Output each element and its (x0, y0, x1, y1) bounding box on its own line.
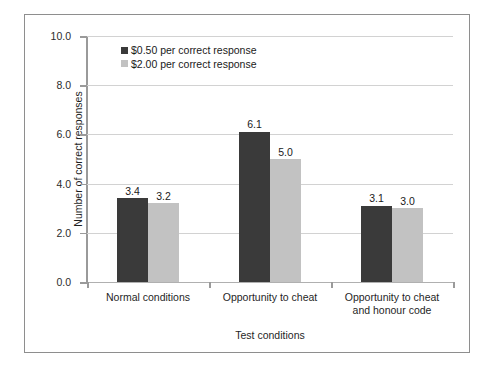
y-tick-mark (80, 282, 87, 284)
bar-value-label: 5.0 (278, 147, 293, 158)
y-tick-mark (80, 36, 87, 38)
legend-item[interactable]: $2.00 per correct response (121, 59, 257, 70)
bar-value-label: 3.1 (369, 193, 384, 204)
bar-value-label: 3.4 (125, 186, 140, 197)
bar[interactable]: 5.0 (270, 159, 301, 282)
y-tick-mark (80, 184, 87, 186)
legend-item-label: $2.00 per correct response (131, 59, 257, 70)
y-tick-label: 10.0 (51, 31, 71, 42)
x-tick-mark (87, 282, 89, 288)
bar-value-label: 3.0 (400, 196, 415, 207)
bar[interactable]: 3.4 (117, 198, 148, 282)
axis-baseline (87, 282, 453, 283)
bar-group: 6.15.0 (209, 36, 331, 282)
x-tick-mark (453, 282, 455, 288)
x-axis-category-label: Opportunity to cheat (201, 291, 339, 304)
y-tick-label: 2.0 (56, 228, 71, 239)
y-tick-label: 8.0 (56, 80, 71, 91)
legend-swatch-icon (121, 47, 128, 54)
legend: $0.50 per correct response$2.00 per corr… (121, 45, 257, 69)
bar-value-label: 3.2 (156, 191, 171, 202)
chart-frame: Number of correct responses 0.02.04.06.0… (24, 14, 470, 353)
x-axis-category-label: Opportunity to cheatand honour code (323, 291, 461, 317)
x-axis-category-label-line: Normal conditions (79, 291, 217, 304)
x-tick-mark (209, 282, 211, 288)
y-tick-mark (80, 134, 87, 136)
y-axis-title: Number of correct responses (73, 49, 84, 269)
x-tick-mark (331, 282, 333, 288)
bar[interactable]: 3.2 (148, 203, 179, 282)
bar[interactable]: 6.1 (239, 132, 270, 282)
x-axis-category-label-line: and honour code (323, 304, 461, 317)
y-tick-mark (80, 85, 87, 87)
y-tick-label: 0.0 (56, 277, 71, 288)
plot-area: 3.43.26.15.03.13.0 (87, 36, 453, 282)
bar[interactable]: 3.0 (392, 208, 423, 282)
y-tick-mark (80, 233, 87, 235)
x-axis-title: Test conditions (87, 329, 453, 341)
bar-group: 3.13.0 (331, 36, 453, 282)
bar[interactable]: 3.1 (361, 206, 392, 282)
legend-swatch-icon (121, 60, 128, 67)
bar-value-label: 6.1 (247, 119, 262, 130)
y-axis-title-container: Number of correct responses (37, 36, 51, 282)
legend-item-label: $0.50 per correct response (131, 45, 257, 56)
legend-item[interactable]: $0.50 per correct response (121, 45, 257, 56)
x-axis-category-label: Normal conditions (79, 291, 217, 304)
x-axis-category-label-line: Opportunity to cheat (201, 291, 339, 304)
x-axis-category-label-line: Opportunity to cheat (323, 291, 461, 304)
y-tick-label: 6.0 (56, 129, 71, 140)
bar-group: 3.43.2 (87, 36, 209, 282)
y-tick-label: 4.0 (56, 178, 71, 189)
